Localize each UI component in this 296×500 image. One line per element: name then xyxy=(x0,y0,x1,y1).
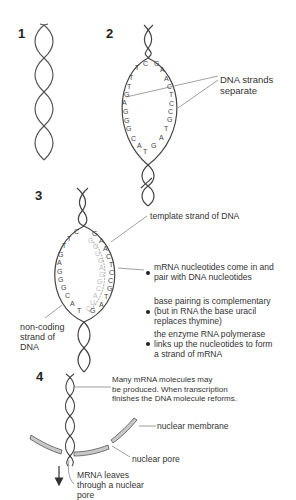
svg-text:G: G xyxy=(98,257,103,264)
svg-text:T: T xyxy=(77,307,82,314)
step-number-1: 1 xyxy=(18,26,25,41)
step-number-2: 2 xyxy=(106,26,113,41)
svg-text:C: C xyxy=(108,277,113,284)
bullet-text-mrna-pairing: mRNA nucleotides come in andpair with DN… xyxy=(154,262,274,282)
bullet-1 xyxy=(146,271,150,275)
svg-text:A: A xyxy=(93,292,98,299)
svg-text:T: T xyxy=(67,235,72,242)
svg-text:G: G xyxy=(167,116,172,123)
svg-text:G: G xyxy=(97,278,102,285)
svg-text:T: T xyxy=(169,91,174,98)
svg-text:C: C xyxy=(106,253,111,260)
bullet-text-base-pairing: base pairing is complementary(but in RNA… xyxy=(154,296,271,326)
svg-text:G: G xyxy=(58,276,63,283)
mrna-leaves-label: MRNA leavesthrough a nuclearpore xyxy=(77,470,144,500)
template-strand-label: template strand of DNA xyxy=(150,211,239,221)
svg-text:G: G xyxy=(107,285,112,292)
svg-text:G: G xyxy=(124,91,129,98)
svg-text:G: G xyxy=(99,271,104,278)
svg-text:T: T xyxy=(104,293,109,300)
bullet-2 xyxy=(146,310,150,314)
step-number-3: 3 xyxy=(35,188,42,203)
svg-text:T: T xyxy=(164,125,169,132)
svg-text:A: A xyxy=(159,134,164,141)
step-number-4: 4 xyxy=(36,369,43,384)
svg-text:A: A xyxy=(99,301,104,308)
svg-text:A: A xyxy=(160,66,165,73)
svg-text:G: G xyxy=(57,268,62,275)
svg-text:A: A xyxy=(103,245,108,252)
reform-label: Many mRNA molecules maybe produced. When… xyxy=(112,375,237,404)
svg-text:C: C xyxy=(168,108,173,115)
svg-text:C: C xyxy=(86,305,91,312)
svg-text:C: C xyxy=(169,100,174,107)
svg-text:G: G xyxy=(124,117,129,124)
svg-text:G: G xyxy=(58,251,63,258)
bullet-3 xyxy=(146,342,150,346)
svg-text:C: C xyxy=(131,135,136,142)
nuclear-pore-label: nuclear pore xyxy=(132,454,180,464)
svg-text:G: G xyxy=(92,230,97,237)
svg-text:C: C xyxy=(65,292,70,299)
svg-text:G: G xyxy=(123,108,128,115)
svg-text:U: U xyxy=(95,250,100,257)
svg-text:C: C xyxy=(143,60,148,67)
svg-text:A: A xyxy=(70,300,75,307)
svg-text:A: A xyxy=(122,99,127,106)
svg-text:C: C xyxy=(167,83,172,90)
svg-text:A: A xyxy=(99,237,104,244)
svg-text:T: T xyxy=(129,74,134,81)
svg-text:T: T xyxy=(109,261,114,268)
nuclear-membrane-label: nuclear membrane xyxy=(157,421,229,431)
svg-text:A: A xyxy=(57,259,62,266)
down-arrow-icon xyxy=(56,466,63,485)
svg-text:C: C xyxy=(96,285,101,292)
svg-text:C: C xyxy=(74,228,79,235)
svg-text:T: T xyxy=(62,242,67,249)
svg-text:T: T xyxy=(127,83,132,90)
svg-text:G: G xyxy=(61,284,66,291)
svg-text:U: U xyxy=(93,243,98,250)
dna-strands-separate-label: DNA strandsseparate xyxy=(220,74,273,96)
svg-text:C: C xyxy=(109,269,114,276)
svg-text:A: A xyxy=(99,264,104,271)
non-coding-strand-label: non-codingstrand ofDNA xyxy=(20,322,65,352)
svg-text:G: G xyxy=(151,142,156,149)
svg-text:A: A xyxy=(164,75,169,82)
svg-text:A: A xyxy=(137,142,142,149)
nuclear-membrane xyxy=(30,418,137,456)
svg-text:T: T xyxy=(143,148,148,155)
svg-text:T: T xyxy=(135,64,140,71)
svg-text:G: G xyxy=(154,60,159,67)
bullet-text-rna-polymerase: the enzyme RNA polymeraselinks up the nu… xyxy=(154,329,272,359)
dna-reformed-4 xyxy=(66,374,75,466)
svg-text:G: G xyxy=(126,125,131,132)
dna-double-helix-1 xyxy=(35,24,53,160)
